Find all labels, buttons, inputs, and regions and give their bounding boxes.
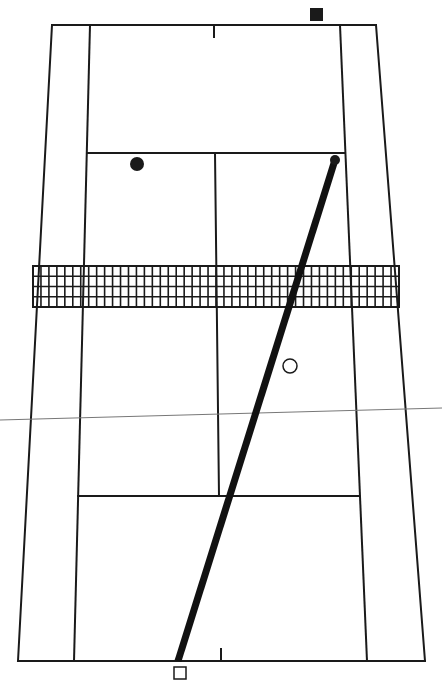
center-service-line [215,153,219,496]
right-doubles-sideline [376,25,425,661]
partner-position-marker-icon [283,359,297,373]
shot-path [178,160,335,661]
opponent-player-marker-icon [310,8,323,21]
net [33,266,399,307]
shot-path-line [178,160,335,661]
court-canvas [0,0,442,684]
tennis-court-diagram [0,0,442,684]
reference-line-stroke [0,408,442,420]
ball-contact-marker-icon [330,155,340,165]
reference-line [0,408,442,420]
left-singles-sideline [74,25,90,661]
net-overlay-line [83,266,84,307]
court-lines [18,25,425,661]
server-position-marker-icon [174,667,186,679]
opponent-partner-marker-icon [130,157,144,171]
player-markers [130,8,340,679]
left-doubles-sideline [18,25,52,661]
right-singles-sideline [340,25,367,661]
